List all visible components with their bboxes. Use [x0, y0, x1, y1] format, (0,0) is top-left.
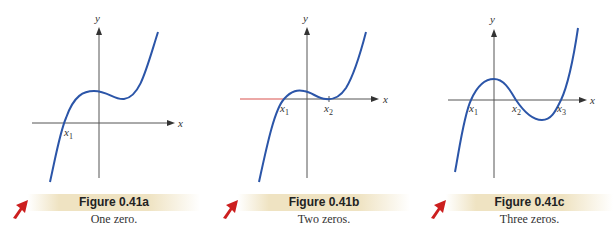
figure-title: Figure 0.41a — [28, 195, 200, 209]
zero-label-x1: x1 — [468, 102, 478, 117]
figure-title: Figure 0.41c — [446, 195, 613, 209]
y-axis-arrow-icon — [491, 29, 497, 37]
caption-bar: Figure 0.41a — [28, 194, 200, 211]
y-axis-arrow-icon — [96, 27, 102, 35]
figure-title: Figure 0.41b — [238, 195, 410, 209]
figure-panel-a: x y x1 Figure 0.41a One zero. — [0, 0, 200, 230]
y-axis-label: y — [302, 12, 308, 24]
zero-label-x2: x2 — [323, 102, 333, 117]
y-axis-label: y — [94, 12, 100, 24]
zero-label-x3: x3 — [556, 102, 566, 117]
figure-caption: Three zeros. — [446, 212, 613, 227]
x-axis-label: x — [589, 94, 595, 106]
cubic-curve — [50, 32, 158, 182]
caption-bar: Figure 0.41b — [238, 194, 410, 211]
graph-three-zeros: x y x1 x2 x3 — [410, 0, 613, 190]
cubic-curve — [259, 32, 366, 182]
figure-panel-c: x y x1 x2 x3 Figure 0.41c Three zeros. — [410, 0, 613, 230]
graph-one-zero: x y x1 — [0, 0, 200, 190]
zero-label-x1: x1 — [63, 126, 73, 141]
y-axis-label: y — [489, 13, 495, 25]
caption-bar: Figure 0.41c — [446, 194, 613, 211]
x-axis-arrow-icon — [371, 96, 379, 102]
y-axis-arrow-icon — [304, 27, 310, 35]
x-axis-label: x — [177, 117, 183, 129]
graph-two-zeros: x y x1 x2 — [200, 0, 410, 190]
figure-caption: One zero. — [28, 212, 200, 227]
figure-caption: Two zeros. — [238, 212, 410, 227]
x-axis-arrow-icon — [167, 120, 175, 126]
zero-label-x1: x1 — [279, 102, 289, 117]
x-axis-arrow-icon — [579, 97, 587, 103]
x-axis-label: x — [382, 93, 388, 105]
figure-panel-b: x y x1 x2 Figure 0.41b Two zeros. — [200, 0, 410, 230]
